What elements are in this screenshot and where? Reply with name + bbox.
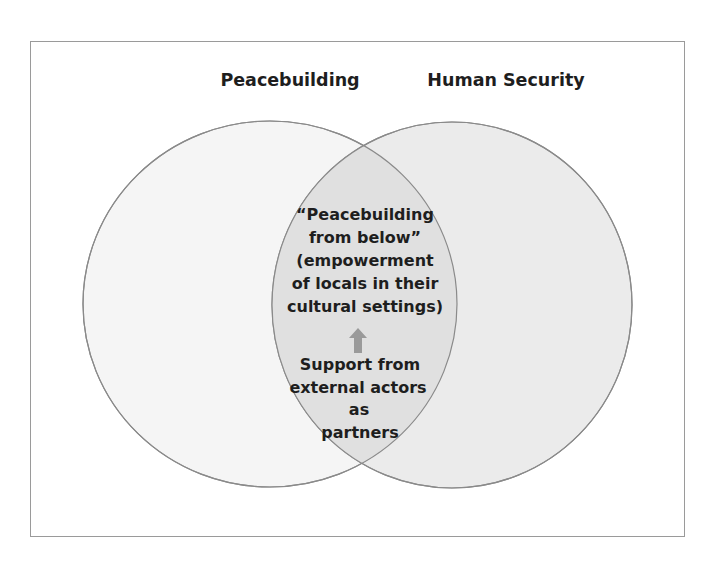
intersection-upper-text: “Peacebuilding from below” (empowerment … <box>287 205 443 316</box>
intersection-line: (empowerment <box>296 251 434 270</box>
intersection-line: external actors <box>289 378 426 397</box>
intersection-line: Support from <box>300 355 420 374</box>
intersection-line: from below” <box>309 228 421 247</box>
set-label-peacebuilding: Peacebuilding <box>220 70 359 90</box>
set-label-human-security: Human Security <box>427 70 585 90</box>
intersection-line: partners <box>321 423 398 442</box>
venn-diagram: Peacebuilding Human Security “Peacebuild… <box>0 0 713 568</box>
intersection-line: of locals in their <box>292 274 439 293</box>
intersection-line: cultural settings) <box>287 297 443 316</box>
intersection-line: as <box>349 400 369 419</box>
intersection-line: “Peacebuilding <box>296 205 434 224</box>
